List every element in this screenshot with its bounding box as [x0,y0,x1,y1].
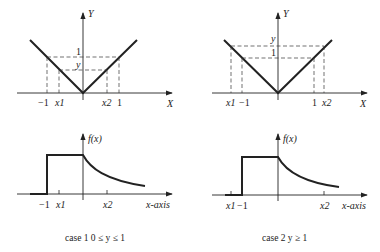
tick-neg1-label: −1 [38,97,49,108]
tick-x2-label: x2 [319,200,329,211]
tick-x2-label: x2 [101,97,111,108]
tick-x1-label: x1 [225,200,235,211]
y-axis-label: Y [283,8,290,19]
guide-lines [231,46,324,93]
x-axis-label: x-axis [341,200,366,211]
x-axis-label: X [359,98,367,109]
diagram-canvas: Y X 1 y −1 x1 x2 1 Y X y 1 x1 −1 1 x2 [0,0,380,252]
panel-bottom-right: f(x) x-axis x1 −1 x2 case 2 y ≥ 1 [212,133,367,243]
tick-x1-label: x1 [225,97,235,108]
level-y-label: y [270,33,276,44]
density-curve [30,155,145,194]
abs-curve [30,40,137,93]
panel-top-right: Y X y 1 x1 −1 1 x2 [212,8,367,109]
tick-1-label: 1 [312,97,317,108]
panel-top-left: Y X 1 y −1 x1 x2 1 [17,8,174,109]
y-axis-label: Y [88,8,95,19]
x-axis-label: x-axis [145,199,170,210]
x-axis-label: X [166,98,174,109]
tick-1-label: 1 [117,97,122,108]
panel-bottom-left: f(x) x-axis −1 x1 x2 case 1 0 ≤ y ≤ 1 [17,133,172,243]
tick-x2-label: x2 [102,199,112,210]
tick-neg1-label: −1 [237,200,248,211]
tick-x1-label: x1 [55,199,65,210]
fx-axis-label: f(x) [283,133,298,145]
caption-case2: case 2 y ≥ 1 [262,233,308,243]
tick-x2-label: x2 [321,97,331,108]
level-1-label: 1 [76,46,81,57]
density-curve [225,157,339,195]
level-1-label: 1 [271,47,276,58]
tick-x1-label: x1 [54,97,64,108]
fx-axis-label: f(x) [88,133,103,145]
tick-neg1-label: −1 [239,97,250,108]
level-y-label: y [75,59,81,70]
caption-case1: case 1 0 ≤ y ≤ 1 [65,233,125,243]
tick-neg1-label: −1 [39,199,50,210]
